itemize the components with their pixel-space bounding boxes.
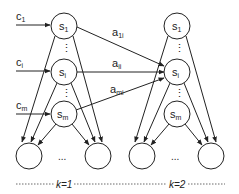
edge-label-a1i: a1i	[112, 26, 124, 39]
input-label-c1: c1	[16, 10, 26, 23]
stage-label-k2: k=2	[169, 179, 186, 190]
vdots-k2-upper: ⋮	[174, 42, 185, 54]
output-node-k1-first	[16, 143, 42, 169]
edge-label-ami: ami	[110, 83, 124, 96]
vdots-k2-lower: ⋮	[174, 87, 185, 99]
output-node-k2-last	[198, 143, 224, 169]
output-node-k2-first	[129, 143, 155, 169]
input-label-ci: ci	[16, 56, 24, 69]
left-column-nodes: s1 ⋮ si ⋮ sm	[51, 13, 77, 127]
vdots-k1-lower: ⋮	[61, 87, 72, 99]
input-label-cm: cm	[16, 99, 28, 112]
diagram-canvas: c1 ci cm a1i aii ami s1 ⋮	[0, 0, 239, 194]
edge-label-aii: aii	[112, 57, 122, 70]
transition-labels: a1i aii ami	[110, 26, 124, 96]
right-column-nodes: s1 ⋮ si ⋮ sm	[164, 13, 190, 127]
vdots-k1-upper: ⋮	[61, 42, 72, 54]
hdots-k1: ...	[58, 151, 66, 162]
output-node-k1-last	[85, 143, 111, 169]
diagram-svg: c1 ci cm a1i aii ami s1 ⋮	[0, 0, 239, 194]
hdots-k2: ...	[171, 151, 179, 162]
stage-label-k1: k=1	[56, 179, 72, 190]
output-nodes	[16, 143, 224, 169]
